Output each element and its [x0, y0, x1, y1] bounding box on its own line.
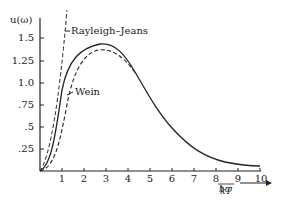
rayleigh-jeans-label: Rayleigh–Jeans [71, 26, 148, 36]
y-tick-0.25: .25 [4, 144, 34, 154]
y-tick-0.5: .5 [4, 122, 34, 132]
y-tick-1.25: 1.25 [4, 56, 34, 66]
x-tick-7: 7 [187, 174, 201, 184]
wein-curve [40, 50, 136, 171]
planck-curve [40, 44, 260, 171]
rayleigh-jeans-curve [40, 10, 67, 171]
y-tick-1.0: 1.0 [4, 78, 34, 88]
x-tick-2: 2 [77, 174, 91, 184]
x-tick-10: 10 [252, 174, 270, 184]
x-tick-6: 6 [165, 174, 179, 184]
y-axis-label: u(ω) [10, 15, 32, 25]
x-tick-1: 1 [55, 174, 69, 184]
x-tick-9: 9 [231, 174, 245, 184]
y-tick-0.75: .75 [4, 100, 34, 110]
x-tick-8: 8 [209, 174, 223, 184]
wein-label: Wein [75, 87, 100, 97]
x-tick-4: 4 [121, 174, 135, 184]
y-tick-1.5: 1.5 [4, 33, 34, 43]
x-axis-label-denominator: kT [220, 186, 231, 196]
x-tick-5: 5 [143, 174, 157, 184]
x-tick-3: 3 [99, 174, 113, 184]
